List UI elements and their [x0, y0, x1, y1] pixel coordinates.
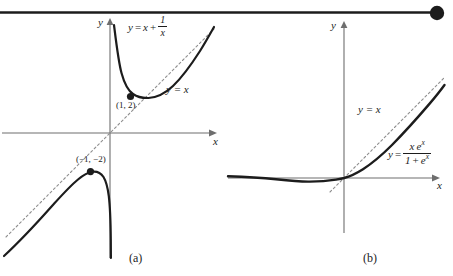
panel-a-x-axis-label: x [213, 136, 218, 147]
panel-b-eq-num-exponent: x [421, 139, 424, 148]
panel-b-x-axis-label: x [437, 180, 442, 191]
panel-a-eq-equals: = [133, 21, 143, 33]
panel-a-caption: (a) [129, 252, 142, 264]
top-rule-group [0, 6, 444, 20]
panel-b-eq-den-plus: + [411, 154, 421, 166]
figure-container: y x y=x+1x y = x (1, 2) (−1, −2) (a) y x… [0, 0, 453, 276]
figure-graphics [0, 0, 453, 276]
panel-a-eq-fraction-denominator: x [158, 28, 167, 38]
panel-b-eq-numerator: x ex [403, 141, 431, 152]
panel-b-caption: (b) [363, 252, 377, 264]
panel-a-eq-plus: + [148, 21, 158, 33]
panel-a-point-label-minus1-minus2: (−1, −2) [76, 155, 106, 164]
panel-b-eq-denominator: 1+ex [403, 155, 431, 166]
panel-a-curve-left-branch [4, 172, 111, 258]
panel-a-y-axis-label: y [98, 17, 103, 28]
panel-b-eq-num-x: x [409, 140, 414, 152]
panel-a-point-label-1-2: (1, 2) [116, 101, 136, 110]
panel-a-point-minus1-minus2-dot [87, 168, 94, 175]
panel-a-eq-fraction: 1x [158, 15, 167, 38]
panel-b-eq-equals: = [393, 148, 403, 160]
panel-b-asymptote-y-equals-x [330, 78, 444, 192]
panel-b-asymptote-label: y = x [358, 104, 381, 115]
panel-b-eq-den-one: 1 [405, 154, 411, 166]
panel-b-graphics [228, 21, 445, 233]
panel-a-eq-fraction-numerator: 1 [158, 15, 167, 25]
panel-a-graphics [2, 18, 217, 258]
panel-b-y-axis-label: y [331, 20, 336, 31]
panel-b-eq-fraction: x ex1+ex [403, 141, 431, 166]
panel-b-y-axis [341, 21, 348, 233]
panel-a-asymptote-label: y = x [166, 84, 189, 95]
panel-a-curve-equation: y=x+1x [128, 17, 167, 40]
top-rule-end-dot [430, 6, 444, 20]
panel-b-curve-equation: y=x ex1+ex [388, 143, 431, 168]
panel-b-eq-den-exponent: x [426, 153, 429, 162]
